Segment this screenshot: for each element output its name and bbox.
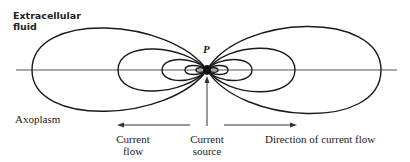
- point-p-label: P: [203, 44, 210, 55]
- left-arrow-head-icon: [117, 123, 124, 128]
- extracellular-label-line1: Extracellular: [13, 10, 81, 21]
- current-flow-diagram: Extracellular fluid Axoplasm P Current f…: [0, 0, 410, 162]
- current-flow-label-line1: Current: [113, 134, 153, 145]
- right-arrow-head-icon: [290, 123, 297, 128]
- current-source-label-line2: source: [187, 146, 227, 157]
- current-source-label-line1: Current: [187, 134, 227, 145]
- current-source-point: [203, 65, 211, 75]
- axoplasm-label: Axoplasm: [15, 114, 60, 125]
- direction-label: Direction of current flow: [265, 134, 375, 145]
- source-arrow-head-icon: [205, 76, 210, 83]
- current-flow-label-line2: flow: [113, 146, 153, 157]
- extracellular-label-line2: fluid: [13, 21, 37, 32]
